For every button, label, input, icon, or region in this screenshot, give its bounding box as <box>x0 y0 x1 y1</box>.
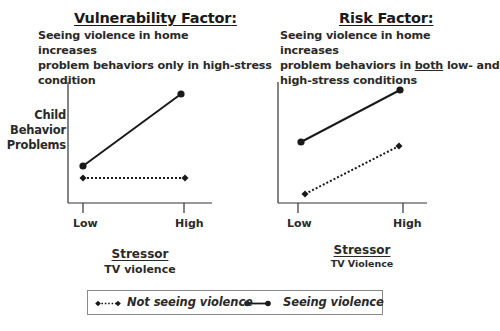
left-series-seeing <box>79 90 184 169</box>
left-series-not-seeing <box>79 174 188 181</box>
diamond-marker <box>301 190 308 197</box>
circle-marker <box>177 90 184 97</box>
circle-marker <box>79 162 86 169</box>
right-x-axis-title: Stressor <box>322 243 402 257</box>
left-x-axis-subtitle: TV violence <box>90 263 190 276</box>
right-x-axis-subtitle: TV Violence <box>312 258 412 269</box>
legend-label-not-seeing: Not seeing violence <box>127 295 253 309</box>
circle-marker <box>396 86 403 93</box>
left-chart-axes <box>68 82 212 213</box>
diamond-marker <box>395 142 402 149</box>
legend: Not seeing violence Seeing violence <box>87 290 383 315</box>
right-chart-axes <box>278 82 427 213</box>
right-series-seeing <box>297 86 403 145</box>
diamond-marker <box>181 174 188 181</box>
legend-label-seeing: Seeing violence <box>283 295 384 309</box>
right-tick-label-high: High <box>393 217 422 230</box>
circle-marker <box>297 138 304 145</box>
left-x-axis-title: Stressor <box>100 247 180 261</box>
right-series-not-seeing <box>301 142 402 197</box>
diamond-marker <box>79 174 86 181</box>
right-tick-label-low: Low <box>287 217 312 230</box>
left-tick-label-low: Low <box>73 217 98 230</box>
legend-not-seeing-symbol <box>95 301 121 307</box>
left-tick-label-high: High <box>175 217 204 230</box>
